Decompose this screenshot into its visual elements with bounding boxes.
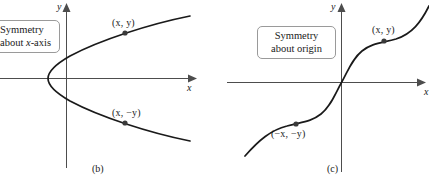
y-axis-label: y <box>331 1 335 12</box>
y-axis-label: y <box>57 1 61 12</box>
point-x-y <box>122 30 127 35</box>
callout-line-2: about origin <box>262 43 331 56</box>
panel-c-caption: (c) <box>327 163 338 174</box>
callout-line-1: Symmetry <box>262 30 331 43</box>
x-axis <box>227 79 426 87</box>
point-x-negy <box>122 120 127 125</box>
callout-symmetry-about-x-axis: Symmetry about x-axis <box>0 20 60 53</box>
callout-line-1: Symmetry <box>0 24 54 37</box>
callout-line-2: about x-axis <box>0 37 54 50</box>
panel-c-symmetry-about-origin: Symmetry about origin (x, y) (−x, −y) y … <box>215 0 429 191</box>
symmetry-figure: Symmetry about x-axis (x, y) (x, −y) y x… <box>0 0 429 191</box>
panel-b-symmetry-about-x-axis: Symmetry about x-axis (x, y) (x, −y) y x… <box>0 0 215 191</box>
point-label-x-y: (x, y) <box>112 17 135 28</box>
point-label-x-negy: (x, −y) <box>112 107 141 118</box>
x-axis-label: x <box>187 82 191 93</box>
point-label-x-y: (x, y) <box>372 24 395 35</box>
y-axis <box>63 3 71 168</box>
callout-line-2-suffix: -axis <box>31 37 51 48</box>
x-axis <box>0 75 197 83</box>
callout-line-2-prefix: about <box>0 37 26 48</box>
point-label-negx-negy: (−x, −y) <box>271 128 306 139</box>
panel-b-caption: (b) <box>92 163 104 174</box>
point-x-y <box>381 38 386 43</box>
point-negx-negy <box>293 121 298 126</box>
x-axis-label: x <box>424 86 428 97</box>
callout-symmetry-about-origin: Symmetry about origin <box>257 26 336 59</box>
